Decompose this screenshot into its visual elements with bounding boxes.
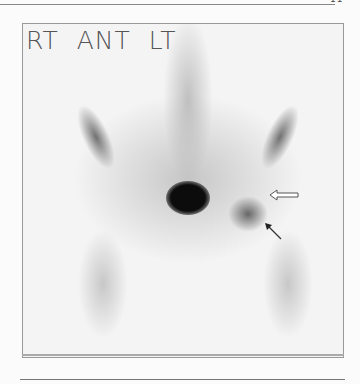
bladder-uptake [166, 181, 210, 215]
view-label: RT ANT LT [26, 26, 176, 55]
left-femur-uptake [263, 229, 313, 339]
solid-arrow-icon [263, 221, 283, 241]
bone-scan-figure: RT ANT LT [22, 23, 344, 358]
left-hip-lesion-uptake [228, 196, 268, 232]
header-rule [0, 4, 335, 5]
open-arrow-icon [269, 189, 299, 201]
page-number: 11 [330, 0, 343, 4]
right-femur-uptake [78, 229, 128, 339]
footer-rule [20, 379, 345, 380]
figure-bottom-border [22, 354, 344, 356]
